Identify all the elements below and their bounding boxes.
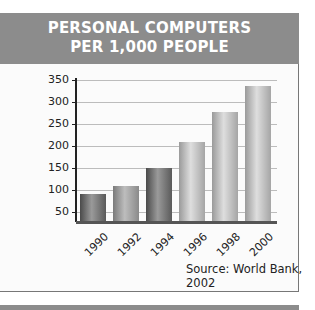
bar-2000 [245,86,271,222]
bar-1990 [80,194,106,222]
y-tick-label: 150 [43,161,69,174]
y-tick-mark [72,168,76,169]
y-tick-mark [72,190,76,191]
y-axis [75,78,77,222]
bar-1996 [179,142,205,222]
source-note: Source: World Bank, 2002 [186,262,315,290]
x-axis [76,221,277,224]
gridline [77,80,277,81]
bar-1992 [113,186,139,222]
y-tick-label: 300 [43,95,69,108]
divider-band [0,305,299,310]
y-tick-mark [72,80,76,81]
y-tick-mark [72,146,76,147]
y-tick-label: 200 [43,139,69,152]
y-tick-mark [72,102,76,103]
bar-1998 [212,112,238,222]
y-tick-label: 100 [43,183,69,196]
y-tick-label: 50 [43,205,69,218]
bar-1994 [146,168,172,223]
y-tick-label: 250 [43,117,69,130]
y-tick-mark [72,124,76,125]
chart-title-line1: PERSONAL COMPUTERS [0,19,299,38]
y-tick-mark [72,212,76,213]
y-tick-label: 350 [43,73,69,86]
chart-title: PERSONAL COMPUTERS PER 1,000 PEOPLE [0,13,299,64]
chart-title-line2: PER 1,000 PEOPLE [0,38,299,57]
